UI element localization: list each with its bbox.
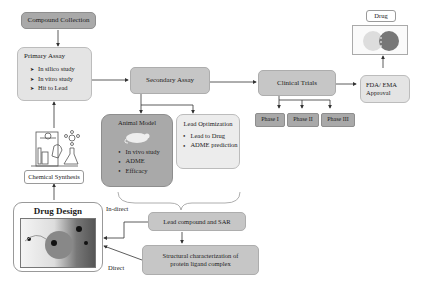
- drug-label: Drug: [374, 12, 387, 20]
- list-item: Efficacy: [118, 166, 160, 175]
- phase-3-node: Phase III: [321, 113, 355, 127]
- drug-design-node: Drug Design: [13, 202, 103, 272]
- animal-model-node: Animal Model In vivo study ADME Efficacy: [101, 114, 173, 187]
- secondary-assay-node: Secondary Assay: [130, 67, 210, 94]
- secondary-assay-label: Secondary Assay: [146, 76, 194, 84]
- list-item: Hit to Lead: [30, 83, 75, 92]
- protein-structure-image: [20, 218, 96, 268]
- lead-compound-sar-label: Lead compound and SAR: [163, 218, 230, 226]
- list-item: In vivo study: [118, 147, 160, 156]
- phase-label: Phase II: [293, 116, 313, 123]
- phase-label: Phase III: [327, 116, 349, 123]
- structural-characterization-node: Structural characterization of protein l…: [142, 245, 259, 275]
- primary-assay-node: Primary Assay In silico study In vitro s…: [17, 47, 92, 101]
- list-item: Lead to Drug: [183, 131, 239, 140]
- lead-optimization-node: Lead Optimization Lead to Drug ADME pred…: [176, 114, 240, 169]
- direct-label: Direct: [108, 264, 124, 271]
- primary-assay-list: In silico study In vitro study Hit to Le…: [24, 64, 75, 92]
- lead-optimization-title: Lead Optimization: [184, 120, 233, 128]
- lab-equipment-icon: [28, 128, 86, 170]
- clinical-trials-label: Clinical Trials: [277, 79, 317, 87]
- animal-model-title: Animal Model: [118, 119, 156, 127]
- lead-compound-sar-node: Lead compound and SAR: [148, 212, 246, 231]
- indirect-label: In-direct: [106, 205, 128, 212]
- animal-model-list: In vivo study ADME Efficacy: [114, 147, 160, 175]
- chemical-synthesis-node: Chemical Synthesis: [24, 170, 84, 184]
- primary-assay-title: Primary Assay: [24, 52, 65, 60]
- compound-collection-node: Compound Collection: [21, 12, 96, 29]
- list-item: ADME: [118, 156, 160, 165]
- chemical-synthesis-label: Chemical Synthesis: [28, 173, 79, 181]
- list-item: In vitro study: [30, 74, 75, 83]
- lead-optimization-list: Lead to Drug ADME prediction: [177, 131, 239, 150]
- compound-collection-label: Compound Collection: [27, 16, 89, 24]
- fda-ema-approval-node: FDA/ EMA Approval: [360, 75, 410, 103]
- capsule-image: [352, 25, 408, 55]
- clinical-trials-node: Clinical Trials: [258, 70, 336, 96]
- structural-characterization-label: Structural characterization of protein l…: [153, 252, 248, 268]
- mouse-icon: [123, 130, 151, 144]
- fda-ema-label: FDA/ EMA Approval: [366, 81, 409, 97]
- phase-1-node: Phase I: [255, 113, 285, 127]
- list-item: In silico study: [30, 64, 75, 73]
- drug-node: Drug: [366, 10, 396, 22]
- phase-2-node: Phase II: [287, 113, 319, 127]
- phase-label: Phase I: [261, 116, 279, 123]
- list-item: ADME prediction: [183, 140, 239, 149]
- drug-design-title: Drug Design: [14, 206, 102, 216]
